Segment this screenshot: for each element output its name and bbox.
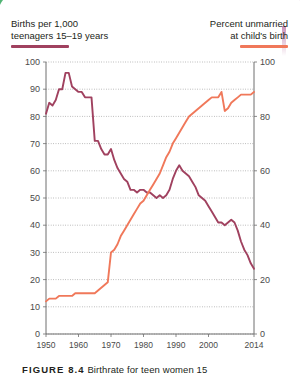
svg-text:1990: 1990 — [167, 340, 186, 350]
legend-label-unmarried-line2: at child's birth — [210, 30, 288, 42]
svg-text:40: 40 — [30, 220, 40, 230]
svg-text:60: 60 — [260, 166, 270, 176]
svg-text:1950: 1950 — [37, 340, 56, 350]
svg-text:10: 10 — [30, 302, 40, 312]
svg-text:2000: 2000 — [199, 340, 218, 350]
svg-text:50: 50 — [30, 193, 40, 203]
y-axis-right-ticks: 020406080100 — [254, 57, 275, 339]
svg-text:100: 100 — [260, 57, 275, 67]
figure-caption-text: Birthrate for teen women 15 — [87, 364, 207, 375]
svg-text:100: 100 — [25, 57, 40, 67]
legend-label-births-line1: Births per 1,000 — [11, 18, 108, 30]
legend-swatch-births — [11, 45, 69, 48]
svg-text:1970: 1970 — [102, 340, 121, 350]
svg-text:60: 60 — [30, 166, 40, 176]
svg-text:0: 0 — [35, 329, 40, 339]
x-axis-ticks: 1950196019701980199020002014 — [37, 334, 264, 350]
svg-text:30: 30 — [30, 248, 40, 258]
svg-text:70: 70 — [30, 139, 40, 149]
legend-item-percent-unmarried: Percent unmarried at child's birth — [210, 18, 288, 48]
svg-text:2014: 2014 — [245, 340, 264, 350]
svg-text:20: 20 — [260, 275, 270, 285]
figure-number: FIGURE 8.4 — [22, 364, 85, 375]
svg-text:1980: 1980 — [134, 340, 153, 350]
chart-area: 0102030405060708090100 020406080100 1950… — [0, 56, 300, 356]
svg-text:80: 80 — [260, 112, 270, 122]
figure-caption: FIGURE 8.4 Birthrate for teen women 15 — [22, 364, 300, 376]
dual-axis-line-chart: 0102030405060708090100 020406080100 1950… — [0, 56, 300, 356]
legend-label-births-line2: teenagers 15–19 years — [11, 30, 108, 42]
y-axis-left-ticks: 0102030405060708090100 — [25, 57, 46, 339]
legend-swatch-unmarried — [240, 45, 288, 48]
svg-text:0: 0 — [260, 329, 265, 339]
chart-legend: Births per 1,000 teenagers 15–19 years P… — [0, 18, 300, 58]
legend-item-births-per-1000: Births per 1,000 teenagers 15–19 years — [11, 18, 108, 48]
legend-label-unmarried-line1: Percent unmarried — [210, 18, 288, 30]
svg-text:40: 40 — [260, 220, 270, 230]
data-series — [46, 73, 254, 301]
svg-text:80: 80 — [30, 112, 40, 122]
svg-text:1960: 1960 — [69, 340, 88, 350]
svg-text:20: 20 — [30, 275, 40, 285]
svg-text:90: 90 — [30, 84, 40, 94]
